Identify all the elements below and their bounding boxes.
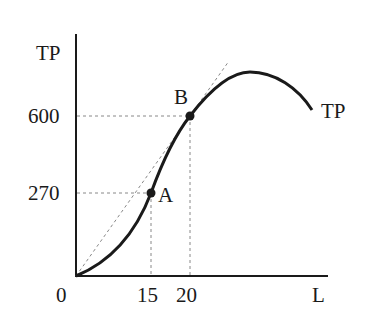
x-axis-label: L: [312, 283, 325, 307]
origin-label: 0: [56, 283, 67, 307]
y-tick-600: 600: [28, 104, 60, 128]
point-b-label: B: [174, 85, 188, 109]
y-axis-label: TP: [36, 41, 61, 65]
x-tick-20: 20: [176, 283, 197, 307]
point-a-marker: [147, 189, 156, 198]
chart-canvas: TP L 0 15 20 600 270 A B TP: [0, 0, 374, 328]
x-tick-15: 15: [137, 283, 158, 307]
tp-curve: [76, 72, 312, 276]
tangent-ray: [76, 61, 229, 276]
curve-label: TP: [321, 99, 346, 123]
point-a-label: A: [158, 183, 174, 207]
y-tick-270: 270: [28, 181, 60, 205]
point-b-marker: [186, 112, 195, 121]
